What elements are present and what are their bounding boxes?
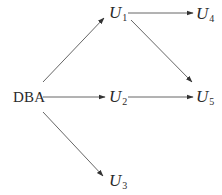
node-u3: U3	[109, 172, 127, 191]
edge-dba-to-u1	[43, 18, 104, 82]
node-u1-letter: U	[109, 3, 121, 22]
edge-u1-to-u5	[131, 20, 192, 82]
node-u2: U2	[109, 88, 127, 107]
node-u1: U1	[109, 4, 127, 23]
node-u3-letter: U	[109, 171, 121, 190]
privilege-grant-diagram: DBA U1 U2 U3 U4 U5	[0, 0, 222, 195]
node-dba: DBA	[13, 90, 45, 105]
node-u3-subscript: 3	[122, 180, 127, 191]
node-u4: U4	[196, 5, 214, 24]
node-u5-subscript: 5	[209, 96, 214, 107]
edge-dba-to-u3	[43, 112, 103, 176]
node-u1-subscript: 1	[122, 12, 127, 23]
node-u5-letter: U	[196, 87, 208, 106]
node-dba-label: DBA	[13, 89, 45, 105]
node-u2-letter: U	[109, 87, 121, 106]
node-u2-subscript: 2	[122, 96, 127, 107]
node-u4-subscript: 4	[209, 13, 214, 24]
node-u4-letter: U	[196, 4, 208, 23]
node-u5: U5	[196, 88, 214, 107]
